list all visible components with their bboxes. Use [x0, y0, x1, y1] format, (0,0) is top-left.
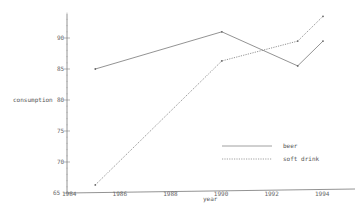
- x-tick-label: 1992: [264, 190, 279, 197]
- y-tick-label: 80: [57, 96, 65, 103]
- y-tick-label: 65: [53, 189, 61, 196]
- legend: beer soft drink: [222, 142, 320, 162]
- y-tick-label: 85: [57, 65, 65, 72]
- x-axis: [67, 189, 355, 193]
- legend-beer-label: beer: [283, 142, 298, 149]
- legend-soft-drink-label: soft drink: [283, 155, 320, 162]
- x-tick-label: 1994: [315, 190, 330, 197]
- y-tick-label: 70: [57, 158, 65, 165]
- x-axis-label: year: [203, 195, 218, 203]
- y-axis-label: consumption: [13, 96, 53, 104]
- x-tick-label: 1984: [62, 190, 77, 197]
- beer-line: [95, 32, 323, 69]
- y-ticks: 657075808590: [53, 13, 70, 196]
- line-chart: 657075808590 198419861988199019921994 co…: [0, 0, 359, 212]
- y-tick-label: 90: [57, 34, 65, 41]
- x-tick-label: 1986: [113, 190, 128, 197]
- x-tick-label: 1988: [163, 190, 178, 197]
- y-tick-label: 75: [57, 127, 65, 134]
